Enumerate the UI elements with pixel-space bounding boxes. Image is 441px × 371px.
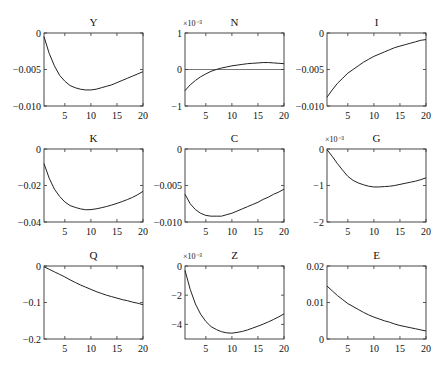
subplot-k: K0−0.02−0.045101520	[18, 132, 148, 237]
subplot-y: Y0−0.005−0.0105101520	[13, 16, 148, 121]
x-tick-label: 10	[369, 226, 379, 237]
axes-box	[327, 149, 426, 222]
series-line	[327, 286, 426, 331]
x-tick-label: 10	[227, 343, 237, 354]
x-tick-label: 15	[112, 343, 122, 354]
x-tick-label: 20	[421, 343, 431, 354]
y-tick-label: −0.005	[296, 64, 324, 75]
x-tick-label: 15	[253, 226, 263, 237]
series-line	[327, 40, 426, 98]
y-tick-label: 0	[319, 144, 324, 155]
x-tick-label: 10	[227, 110, 237, 121]
subplot-title: N	[231, 16, 239, 28]
y-tick-label: 0	[177, 64, 182, 75]
y-tick-label: −0.005	[154, 180, 182, 191]
x-tick-label: 20	[279, 343, 289, 354]
y-tick-label: 0	[319, 28, 324, 39]
x-tick-label: 20	[138, 226, 148, 237]
subplot-title: K	[90, 132, 98, 144]
y-tick-label: −4	[171, 319, 182, 330]
series-line	[185, 270, 284, 333]
x-tick-label: 15	[112, 226, 122, 237]
y-tick-label: 1	[177, 28, 182, 39]
x-tick-label: 10	[86, 110, 96, 121]
y-tick-label: 0	[177, 144, 182, 155]
y-tick-label: −0.2	[23, 334, 41, 345]
x-tick-label: 20	[279, 110, 289, 121]
axes-box	[327, 33, 426, 106]
series-line	[44, 164, 143, 210]
axes-box	[44, 266, 143, 339]
x-tick-label: 15	[253, 110, 263, 121]
y-tick-label: −2	[313, 217, 324, 228]
series-line	[44, 267, 143, 305]
x-tick-label: 10	[86, 226, 96, 237]
x-tick-label: 20	[421, 226, 431, 237]
y-tick-label: 0	[177, 261, 182, 272]
x-tick-label: 20	[279, 226, 289, 237]
axis-multiplier: ×10⁻³	[183, 19, 203, 28]
subplot-z: Z×10⁻³0−2−45101520	[171, 249, 289, 354]
y-tick-label: 0.01	[307, 297, 325, 308]
x-tick-label: 5	[345, 110, 350, 121]
y-tick-label: −0.005	[13, 64, 41, 75]
y-tick-label: −0.010	[296, 101, 324, 112]
x-tick-label: 5	[345, 226, 350, 237]
x-tick-label: 5	[345, 343, 350, 354]
x-tick-label: 10	[227, 226, 237, 237]
x-tick-label: 20	[138, 110, 148, 121]
axis-multiplier: ×10⁻³	[325, 135, 345, 144]
axes-box	[185, 266, 284, 339]
x-tick-label: 15	[253, 343, 263, 354]
subplot-title: I	[375, 16, 379, 28]
y-tick-label: 0	[36, 261, 41, 272]
x-tick-label: 20	[421, 110, 431, 121]
subplot-title: Y	[90, 16, 98, 28]
y-tick-label: −0.04	[18, 217, 41, 228]
subplot-c: C0−0.005−0.0105101520	[154, 132, 289, 237]
y-tick-label: 0	[319, 334, 324, 345]
axes-box	[185, 149, 284, 222]
y-tick-label: −1	[171, 101, 182, 112]
x-tick-label: 5	[203, 226, 208, 237]
x-tick-label: 5	[62, 226, 67, 237]
subplot-q: Q0−0.1−0.25101520	[23, 249, 148, 354]
subplot-title: Q	[90, 249, 98, 261]
series-line	[185, 189, 284, 216]
x-tick-label: 15	[112, 110, 122, 121]
subplot-title: E	[373, 249, 380, 261]
y-tick-label: −0.02	[18, 180, 41, 191]
y-tick-label: −0.1	[23, 297, 41, 308]
x-tick-label: 5	[203, 110, 208, 121]
x-tick-label: 10	[369, 110, 379, 121]
subplot-title: G	[373, 132, 381, 144]
axes-box	[44, 33, 143, 106]
y-tick-label: −1	[313, 180, 324, 191]
series-line	[327, 150, 426, 187]
impulse-response-figure: Y0−0.005−0.0105101520N×10⁻³10−15101520I0…	[0, 0, 441, 371]
series-line	[185, 63, 284, 91]
x-tick-label: 15	[395, 226, 405, 237]
axes-box	[44, 149, 143, 222]
x-tick-label: 15	[395, 110, 405, 121]
x-tick-label: 5	[203, 343, 208, 354]
x-tick-label: 10	[369, 343, 379, 354]
y-tick-label: −2	[171, 290, 182, 301]
subplot-n: N×10⁻³10−15101520	[171, 16, 289, 121]
y-tick-label: 0.02	[307, 261, 325, 272]
series-line	[44, 37, 143, 90]
x-tick-label: 10	[86, 343, 96, 354]
subplot-title: Z	[231, 249, 238, 261]
y-tick-label: −0.010	[13, 101, 41, 112]
subplot-title: C	[231, 132, 238, 144]
y-tick-label: 0	[36, 28, 41, 39]
y-tick-label: 0	[36, 144, 41, 155]
x-tick-label: 5	[62, 110, 67, 121]
x-tick-label: 20	[138, 343, 148, 354]
subplot-g: G×10⁻³0−1−25101520	[313, 132, 431, 237]
subplot-e: E0.020.0105101520	[307, 249, 432, 354]
x-tick-label: 5	[62, 343, 67, 354]
axis-multiplier: ×10⁻³	[183, 252, 203, 261]
x-tick-label: 15	[395, 343, 405, 354]
y-tick-label: −0.010	[154, 217, 182, 228]
